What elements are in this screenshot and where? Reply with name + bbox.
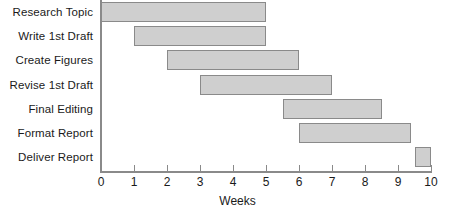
task-label: Write 1st Draft: [0, 30, 93, 42]
x-axis-tick-label: 5: [253, 175, 279, 189]
x-axis-tick-label: 4: [220, 175, 246, 189]
x-axis-tick: [233, 165, 234, 171]
x-axis-tick-label: 6: [286, 175, 312, 189]
x-axis-tick: [134, 165, 135, 171]
task-label: Format Report: [0, 127, 93, 139]
x-axis-tick: [266, 165, 267, 171]
task-label: Revise 1st Draft: [0, 79, 93, 91]
gantt-bar: [134, 26, 266, 46]
x-axis-tick: [299, 165, 300, 171]
x-axis-title: Weeks: [0, 194, 459, 208]
plot-area: [101, 0, 431, 172]
x-axis-title-text: Weeks: [219, 194, 255, 208]
x-axis-tick: [365, 165, 366, 171]
x-axis-tick-label: 0: [88, 175, 114, 189]
x-axis-tick-label: 3: [187, 175, 213, 189]
task-label: Deliver Report: [0, 151, 93, 163]
x-axis-tick: [398, 165, 399, 171]
gantt-bar: [415, 147, 432, 167]
x-axis-tick-label: 9: [385, 175, 411, 189]
gantt-bar: [299, 123, 411, 143]
x-axis-tick: [200, 165, 201, 171]
task-label: Create Figures: [0, 54, 93, 66]
gantt-bar: [167, 50, 299, 70]
x-axis-tick-label: 8: [352, 175, 378, 189]
x-axis-tick-label: 1: [121, 175, 147, 189]
gantt-bar: [200, 75, 332, 95]
x-axis-tick-label: 2: [154, 175, 180, 189]
y-axis-line: [100, 0, 102, 172]
x-axis-tick-label: 10: [418, 175, 444, 189]
gantt-bar: [283, 99, 382, 119]
gantt-chart: Research TopicWrite 1st DraftCreate Figu…: [0, 0, 459, 218]
task-label: Research Topic: [0, 6, 93, 18]
task-label-column: Research TopicWrite 1st DraftCreate Figu…: [0, 0, 97, 170]
x-axis-tick: [167, 165, 168, 171]
x-axis-line: [100, 171, 432, 173]
task-label: Final Editing: [0, 103, 93, 115]
x-axis-tick: [332, 165, 333, 171]
x-axis-tick-label: 7: [319, 175, 345, 189]
x-axis-tick: [431, 165, 432, 171]
gantt-bar: [101, 2, 266, 22]
